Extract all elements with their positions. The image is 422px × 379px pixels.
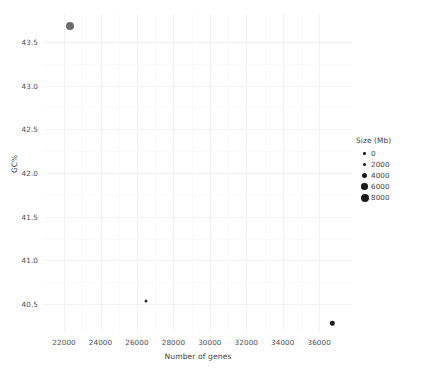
- x-axis-title: Number of genes: [44, 352, 352, 361]
- gridline-major-x: [173, 14, 174, 332]
- y-axis-tick-labels: 40.541.041.542.042.543.043.5: [0, 14, 38, 332]
- data-point[interactable]: [66, 22, 74, 30]
- gridline-minor-y: [44, 195, 352, 196]
- gridline-major-x: [319, 14, 320, 332]
- gridline-major-x: [283, 14, 284, 332]
- x-tick-label: 34000: [271, 338, 294, 347]
- y-axis-title: GC%: [10, 155, 19, 173]
- legend-key: [358, 148, 371, 159]
- gridline-minor-y: [44, 64, 352, 65]
- gridline-major-y: [44, 86, 352, 87]
- gridline-major-y: [44, 42, 352, 43]
- gridline-major-x: [210, 14, 211, 332]
- legend-key: [358, 159, 371, 170]
- x-tick-label: 28000: [162, 338, 185, 347]
- legend-key: [358, 192, 371, 203]
- legend-label: 4000: [371, 171, 390, 180]
- legend-label: 0: [371, 149, 376, 158]
- gridline-minor-y: [44, 107, 352, 108]
- gridline-major-x: [101, 14, 102, 332]
- x-tick-label: 24000: [89, 338, 112, 347]
- gridline-major-y: [44, 260, 352, 261]
- y-tick-label: 42.5: [22, 125, 38, 134]
- legend-label: 6000: [371, 182, 390, 191]
- y-tick-label: 41.5: [22, 212, 38, 221]
- gridline-major-y: [44, 217, 352, 218]
- gridline-major-x: [246, 14, 247, 332]
- gridline-major-y: [44, 129, 352, 130]
- x-tick-label: 22000: [52, 338, 75, 347]
- gridline-minor-y: [44, 282, 352, 283]
- legend-row[interactable]: 8000: [358, 192, 420, 203]
- data-point[interactable]: [145, 299, 148, 302]
- gridline-major-x: [64, 14, 65, 332]
- legend-dot-icon: [362, 173, 367, 178]
- y-tick-label: 40.5: [22, 300, 38, 309]
- x-tick-label: 26000: [125, 338, 148, 347]
- gridline-major-x: [137, 14, 138, 332]
- legend-row[interactable]: 0: [358, 148, 420, 159]
- x-tick-label: 32000: [235, 338, 258, 347]
- legend-dot-icon: [363, 163, 367, 167]
- legend-row[interactable]: 2000: [358, 159, 420, 170]
- legend-row[interactable]: 6000: [358, 181, 420, 192]
- gridline-minor-y: [44, 239, 352, 240]
- plot-panel: [44, 14, 352, 332]
- scatter-chart: 40.541.041.542.042.543.043.5 22000240002…: [0, 0, 422, 379]
- data-point[interactable]: [330, 321, 334, 325]
- legend-row[interactable]: 4000: [358, 170, 420, 181]
- x-tick-label: 36000: [308, 338, 331, 347]
- x-axis-tick-labels: 2200024000260002800030000320003400036000: [44, 338, 352, 350]
- legend-key: [358, 170, 371, 181]
- y-tick-label: 41.0: [22, 256, 38, 265]
- legend-dot-icon: [361, 183, 368, 190]
- legend-label: 2000: [371, 160, 390, 169]
- y-tick-label: 43.5: [22, 37, 38, 46]
- legend-dot-icon: [363, 152, 366, 155]
- gridline-major-y: [44, 173, 352, 174]
- legend-label: 8000: [371, 193, 390, 202]
- legend-dot-icon: [361, 194, 369, 202]
- size-legend: Size (Mb) 02000400060008000: [358, 136, 420, 203]
- y-tick-label: 42.0: [22, 169, 38, 178]
- legend-key: [358, 181, 371, 192]
- legend-title: Size (Mb): [356, 136, 420, 145]
- x-tick-label: 30000: [198, 338, 221, 347]
- gridline-minor-y: [44, 151, 352, 152]
- legend-entries: 02000400060008000: [358, 148, 420, 203]
- gridline-major-y: [44, 304, 352, 305]
- y-tick-label: 43.0: [22, 81, 38, 90]
